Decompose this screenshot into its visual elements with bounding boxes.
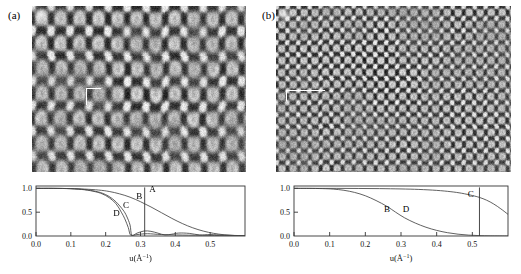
- x-tick-label: 0.1: [66, 240, 76, 249]
- x-tick-label: 0.3: [136, 240, 146, 249]
- curve-label-B: B: [384, 204, 390, 214]
- x-tick-label: 0.5: [467, 240, 477, 249]
- y-tick-label: 0.0: [280, 232, 290, 241]
- y-tick-label: 0.5: [22, 208, 32, 217]
- x-axis-title: u(Å−1): [390, 253, 413, 263]
- curve-label-D: D: [113, 208, 120, 218]
- x-tick-label: 0.5: [205, 240, 215, 249]
- panel-b: (b) 0.00.10.20.30.40.50.00.51.0BDCu(Å−1): [258, 0, 521, 274]
- curve-label-D: D: [403, 204, 410, 214]
- panel-b-label: (b): [262, 10, 275, 21]
- curve-label-B: B: [136, 191, 142, 201]
- x-tick-label: 0.2: [101, 240, 111, 249]
- x-tick-label: 0.1: [325, 240, 335, 249]
- x-tick-label: 0.3: [396, 240, 406, 249]
- curve-label-C: C: [123, 200, 129, 210]
- x-tick-label: 0.0: [289, 240, 299, 249]
- curve-label-C: C: [468, 189, 474, 199]
- x-tick-label: 0.0: [31, 240, 41, 249]
- x-axis-title: u(Å−1): [129, 253, 152, 263]
- transfer-function-plot-b: 0.00.10.20.30.40.50.00.51.0BDCu(Å−1): [258, 178, 521, 274]
- transfer-function-plot-a: 0.00.10.20.30.40.50.00.51.0ABCDu(Å−1): [0, 178, 258, 274]
- x-tick-label: 0.2: [360, 240, 370, 249]
- curve-label-A: A: [149, 184, 156, 194]
- hrtem-image-a: [32, 6, 246, 172]
- y-tick-label: 0.0: [22, 232, 32, 241]
- curve-C: [294, 188, 508, 214]
- x-tick-label: 0.4: [432, 240, 442, 249]
- y-tick-label: 1.0: [280, 184, 290, 193]
- figure-root: (a) 0.00.10.20.30.40.50.00.51.0ABCDu(Å−1…: [0, 0, 521, 274]
- panel-a: (a) 0.00.10.20.30.40.50.00.51.0ABCDu(Å−1…: [0, 0, 258, 274]
- plot-frame: [294, 186, 508, 236]
- panel-a-label: (a): [8, 10, 20, 21]
- x-tick-label: 0.4: [170, 240, 180, 249]
- hrtem-image-b: [276, 6, 511, 172]
- y-tick-label: 1.0: [22, 184, 32, 193]
- curve-B: [294, 188, 508, 236]
- y-tick-label: 0.5: [280, 208, 290, 217]
